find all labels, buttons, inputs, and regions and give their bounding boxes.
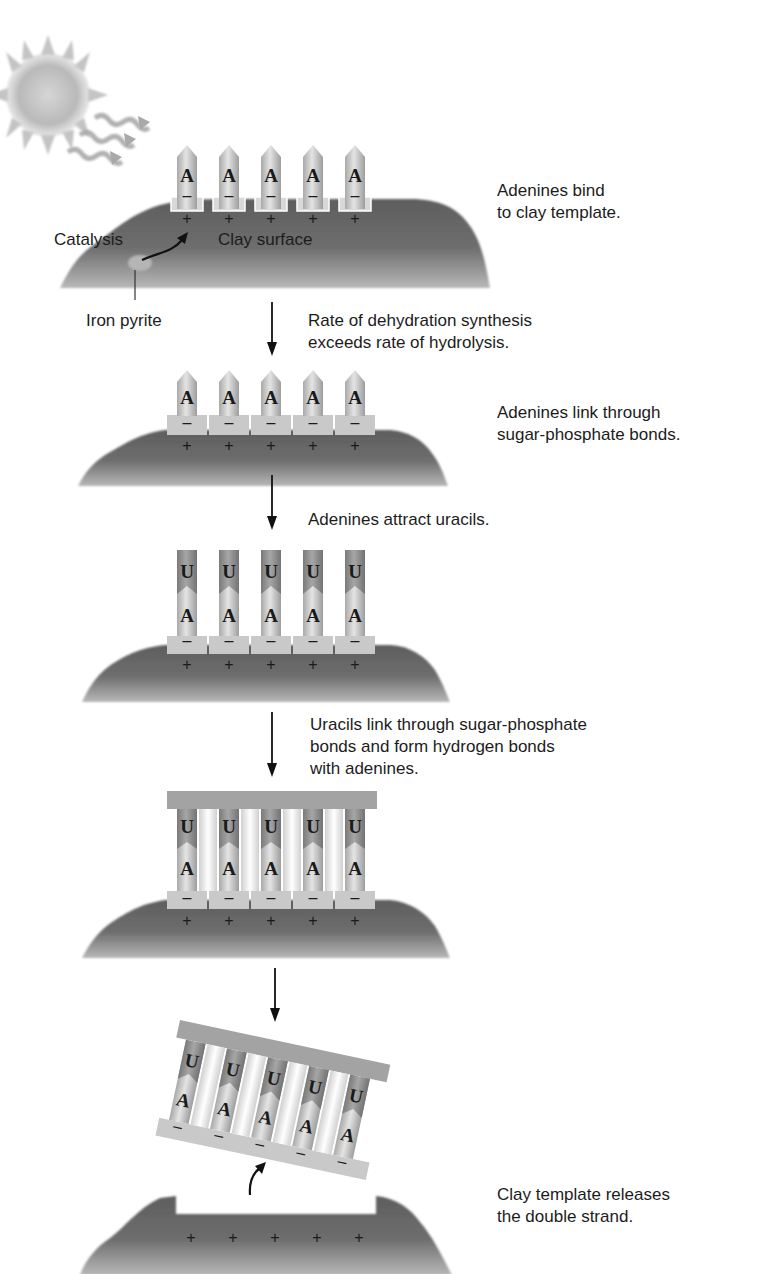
step2-panel: A – A – A – A – A – bbox=[78, 370, 448, 486]
svg-text:+: + bbox=[266, 210, 275, 227]
negative-charge: – bbox=[309, 889, 318, 906]
base-label: U bbox=[348, 816, 362, 837]
svg-text:+: + bbox=[182, 210, 191, 227]
svg-text:+: + bbox=[308, 656, 317, 673]
svg-text:+: + bbox=[224, 437, 233, 454]
base-label: U bbox=[348, 561, 362, 582]
svg-text:+: + bbox=[186, 1229, 195, 1246]
negative-charge: – bbox=[309, 187, 318, 204]
svg-text:+: + bbox=[350, 437, 359, 454]
base-label: A bbox=[306, 387, 320, 408]
svg-text:+: + bbox=[350, 656, 359, 673]
base-label: A bbox=[180, 165, 194, 186]
base-label: A bbox=[348, 165, 362, 186]
base-label: U bbox=[264, 561, 278, 582]
process-arrow-3 bbox=[267, 712, 277, 777]
svg-text:+: + bbox=[266, 437, 275, 454]
negative-charge: – bbox=[225, 632, 234, 649]
base-label: U bbox=[264, 816, 278, 837]
negative-charge: – bbox=[267, 889, 276, 906]
step5-panel: U A – U A – U A – bbox=[80, 1020, 452, 1274]
negative-charge: – bbox=[267, 632, 276, 649]
clay-mound bbox=[78, 430, 448, 486]
caption-step1: Adenines bind to clay template. bbox=[497, 180, 621, 224]
base-label: A bbox=[264, 387, 278, 408]
caption-transition2: Adenines attract uracils. bbox=[308, 509, 489, 531]
negative-charge: – bbox=[183, 414, 192, 431]
base-label: A bbox=[348, 387, 362, 408]
svg-text:+: + bbox=[308, 912, 317, 929]
negative-charge: – bbox=[351, 187, 360, 204]
svg-text:+: + bbox=[312, 1229, 321, 1246]
base-label: A bbox=[348, 858, 362, 879]
svg-text:+: + bbox=[182, 437, 191, 454]
base-label: A bbox=[306, 605, 320, 626]
svg-text:+: + bbox=[266, 656, 275, 673]
base-label: A bbox=[264, 605, 278, 626]
svg-text:+: + bbox=[224, 656, 233, 673]
svg-text:+: + bbox=[228, 1229, 237, 1246]
negative-charge: – bbox=[225, 414, 234, 431]
process-arrow-1 bbox=[267, 302, 277, 356]
base-label: A bbox=[180, 858, 194, 879]
base-label: A bbox=[222, 605, 236, 626]
base-label: A bbox=[180, 605, 194, 626]
svg-text:+: + bbox=[350, 912, 359, 929]
caption-step5: Clay template releases the double strand… bbox=[497, 1184, 670, 1228]
base-label: A bbox=[222, 387, 236, 408]
caption-step2: Adenines link through sugar-phosphate bo… bbox=[497, 402, 680, 446]
base-label: U bbox=[306, 816, 320, 837]
svg-text:+: + bbox=[182, 656, 191, 673]
negative-charge: – bbox=[183, 187, 192, 204]
step3-panel: U A – U A – U A – U A bbox=[82, 550, 450, 702]
base-label: A bbox=[222, 165, 236, 186]
svg-text:+: + bbox=[354, 1229, 363, 1246]
negative-charge: – bbox=[225, 889, 234, 906]
svg-text:+: + bbox=[308, 210, 317, 227]
negative-charge: – bbox=[183, 632, 192, 649]
iron-pyrite-label: Iron pyrite bbox=[86, 311, 162, 331]
base-label: A bbox=[264, 165, 278, 186]
base-label: A bbox=[306, 858, 320, 879]
clay-template-released bbox=[80, 1196, 452, 1274]
caption-transition1: Rate of dehydration synthesis exceeds ra… bbox=[308, 310, 532, 354]
diagram-stage: A – A – A – A – A – bbox=[0, 0, 763, 1274]
base-label: A bbox=[222, 858, 236, 879]
negative-charge: – bbox=[351, 632, 360, 649]
base-label: A bbox=[264, 858, 278, 879]
negative-charge: – bbox=[183, 889, 192, 906]
negative-charge: – bbox=[351, 889, 360, 906]
release-arrow bbox=[250, 1168, 260, 1195]
svg-text:+: + bbox=[182, 912, 191, 929]
step1-panel: A – A – A – A – A – bbox=[0, 35, 490, 300]
negative-charge: – bbox=[225, 187, 234, 204]
clay-surface-label: Clay surface bbox=[218, 230, 312, 250]
svg-text:+: + bbox=[224, 210, 233, 227]
negative-charge: – bbox=[267, 187, 276, 204]
negative-charge: – bbox=[267, 414, 276, 431]
diagram-svg: A – A – A – A – A – bbox=[0, 0, 763, 1274]
negative-charge: – bbox=[351, 414, 360, 431]
step4-panel: U A – U A – U A – U A bbox=[82, 791, 450, 958]
base-label: U bbox=[222, 816, 236, 837]
released-double-strand: U A – U A – U A – bbox=[155, 1020, 390, 1180]
svg-text:+: + bbox=[270, 1229, 279, 1246]
base-label: U bbox=[180, 561, 194, 582]
base-label: A bbox=[180, 387, 194, 408]
negative-charge: – bbox=[309, 414, 318, 431]
uracil-adenine-pairs: U A – U A – U A – U A bbox=[177, 550, 365, 649]
base-label: A bbox=[306, 165, 320, 186]
svg-text:+: + bbox=[308, 437, 317, 454]
base-label: U bbox=[306, 561, 320, 582]
catalysis-label: Catalysis bbox=[54, 230, 123, 250]
svg-text:+: + bbox=[350, 210, 359, 227]
caption-transition3: Uracils link through sugar-phosphate bon… bbox=[310, 714, 587, 780]
svg-text:+: + bbox=[224, 912, 233, 929]
base-label: A bbox=[348, 605, 362, 626]
process-arrow-4 bbox=[270, 968, 280, 1022]
uracil-backbone bbox=[167, 791, 377, 809]
svg-text:+: + bbox=[266, 912, 275, 929]
negative-charge: – bbox=[309, 632, 318, 649]
base-label: U bbox=[222, 561, 236, 582]
base-label: U bbox=[180, 816, 194, 837]
